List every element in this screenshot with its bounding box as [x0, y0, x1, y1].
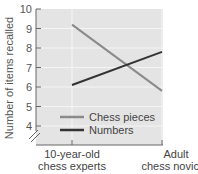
y-tick-label: 5 [26, 101, 32, 113]
x-tick-label: 10-year-old [44, 148, 100, 160]
y-tick-label: 8 [26, 42, 32, 54]
x-tick-label: chess experts [38, 160, 106, 172]
y-tick-label: 10 [20, 3, 32, 15]
x-tick-label: chess novices [141, 160, 198, 172]
legend-label: Numbers [89, 124, 134, 136]
y-tick-label: 4 [26, 120, 32, 132]
y-axis-label: Number of items recalled [3, 17, 15, 139]
legend-label: Chess pieces [89, 111, 156, 123]
x-tick-label: Adult [163, 148, 188, 160]
line-chart: 45678910 10-year-oldchess expertsAdultch… [0, 0, 198, 174]
y-tick-label: 6 [26, 81, 32, 93]
y-tick-label: 7 [26, 62, 32, 74]
y-tick-label: 9 [26, 23, 32, 35]
